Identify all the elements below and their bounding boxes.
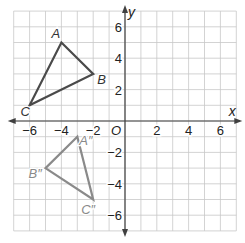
vertex-label: C [21, 104, 31, 119]
vertex-label: B″ [29, 166, 43, 181]
vertex-label: C″ [81, 202, 95, 217]
x-tick-label: −6 [22, 123, 37, 138]
x-tick-label: 6 [217, 123, 224, 138]
y-tick-label: 2 [115, 83, 122, 98]
x-tick-label: 4 [185, 123, 192, 138]
y-tick-label: −2 [107, 145, 122, 160]
x-tick-label: 2 [153, 123, 160, 138]
y-tick-label: 6 [115, 20, 122, 35]
x-axis-arrow-left-icon [8, 118, 16, 124]
x-tick-label: −4 [54, 123, 69, 138]
vertex-label: B [97, 72, 106, 87]
y-axis-label: y [127, 4, 136, 20]
x-axis-label: x [228, 103, 237, 119]
y-tick-label: −6 [107, 208, 122, 223]
y-tick-label: 4 [115, 51, 122, 66]
coordinate-plane: −6−4−2246642−2−4−6Oxy ABCA″B″C″ [0, 0, 245, 243]
y-tick-label: −4 [107, 177, 122, 192]
origin-label: O [111, 123, 121, 138]
vertex-label: A″ [78, 133, 93, 148]
axes [8, 5, 243, 237]
y-axis-arrow-down-icon [122, 229, 128, 237]
vertex-label: A [50, 26, 60, 41]
